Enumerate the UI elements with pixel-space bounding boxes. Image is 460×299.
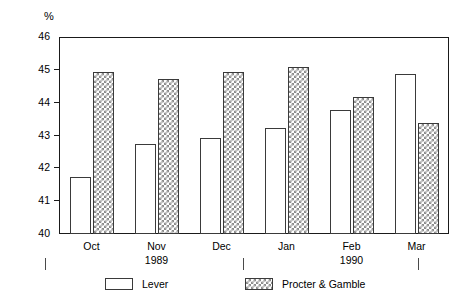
x-axis-year: 1990 xyxy=(319,254,384,267)
y-axis-tick-label: 42 xyxy=(26,161,50,174)
year-separator-tick xyxy=(418,258,419,270)
bar-nov-lever xyxy=(135,144,156,234)
plot-area xyxy=(60,38,448,233)
y-axis-tick-mark xyxy=(54,102,60,103)
x-axis-label-mar: Mar xyxy=(384,240,449,253)
y-axis-unit-label: % xyxy=(44,10,54,22)
bar-oct-lever xyxy=(70,177,91,234)
legend-entry-procter-gamble[interactable]: Procter & Gamble xyxy=(245,277,365,291)
bar-chart-figure: % 46454443424140 OctNov1989DecJanFeb1990… xyxy=(0,0,460,299)
bar-nov-procter-gamble xyxy=(158,79,179,234)
plot-frame xyxy=(59,37,449,234)
bar-mar-procter-gamble xyxy=(418,123,439,234)
x-axis-category: Jan xyxy=(254,240,319,253)
x-axis-label-oct: Oct xyxy=(59,240,124,253)
bar-mar-lever xyxy=(395,74,416,234)
legend-swatch-lever xyxy=(105,278,133,290)
x-axis-category: Oct xyxy=(59,240,124,253)
year-separator-tick xyxy=(45,258,46,270)
x-axis-label-dec: Dec xyxy=(189,240,254,253)
y-axis-tick-mark xyxy=(54,135,60,136)
bar-feb-lever xyxy=(330,110,351,234)
x-axis-label-nov: Nov1989 xyxy=(124,240,189,267)
bar-feb-procter-gamble xyxy=(353,97,374,234)
y-axis-tick-mark xyxy=(54,167,60,168)
y-axis-tick-label: 46 xyxy=(26,30,50,43)
bar-jan-lever xyxy=(265,128,286,234)
y-axis-tick-label: 44 xyxy=(26,96,50,109)
y-axis-tick-label: 41 xyxy=(26,194,50,207)
x-axis-category: Feb xyxy=(319,240,384,253)
legend-label: Procter & Gamble xyxy=(282,278,365,290)
y-axis-tick-label: 40 xyxy=(26,227,50,240)
bar-dec-procter-gamble xyxy=(223,72,244,234)
legend: LeverProcter & Gamble xyxy=(0,277,460,295)
x-axis-label-feb: Feb1990 xyxy=(319,240,384,267)
x-axis-label-jan: Jan xyxy=(254,240,319,253)
y-axis-tick-label: 43 xyxy=(26,129,50,142)
bar-dec-lever xyxy=(200,138,221,234)
y-axis-tick-mark xyxy=(54,200,60,201)
legend-label: Lever xyxy=(142,278,168,290)
y-axis-tick-label: 45 xyxy=(26,63,50,76)
x-axis-category: Mar xyxy=(384,240,449,253)
x-axis-year: 1989 xyxy=(124,254,189,267)
legend-entry-lever[interactable]: Lever xyxy=(105,277,168,291)
y-axis-tick-mark xyxy=(54,69,60,70)
legend-swatch-procter-gamble xyxy=(245,278,273,290)
year-separator-tick xyxy=(243,258,244,270)
bar-jan-procter-gamble xyxy=(288,67,309,234)
x-axis-category: Nov xyxy=(124,240,189,253)
bar-oct-procter-gamble xyxy=(93,72,114,234)
x-axis-category: Dec xyxy=(189,240,254,253)
